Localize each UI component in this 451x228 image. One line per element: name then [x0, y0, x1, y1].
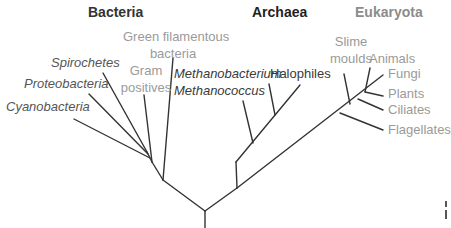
label-spirochetes: Spirochetes: [51, 55, 120, 70]
edge-mark-top: [445, 201, 447, 207]
heading-archaea: Archaea: [252, 4, 307, 20]
branch-ciliates: [358, 99, 383, 110]
branch-methanococcus: [243, 101, 253, 143]
heading-bacteria: Bacteria: [88, 4, 143, 20]
label-slime-moulds: Slime moulds: [330, 34, 372, 66]
branch-proteobacteria: [89, 94, 148, 154]
archaea-stem: [236, 162, 237, 188]
heading-eukaryota: Eukaryota: [355, 4, 423, 20]
label-gram-positives: Gram positives: [118, 63, 174, 95]
ae-trunk: [205, 188, 237, 211]
label-animals: Animals: [369, 51, 415, 66]
label-green-filamentous-line1: Green filamentous: [123, 29, 223, 44]
branch-cyanobacteria: [74, 119, 150, 158]
label-slime-line2: moulds: [330, 51, 372, 66]
branch-plants: [365, 92, 383, 96]
label-gram-line2: positives: [118, 80, 174, 95]
branch-flagellates: [340, 113, 383, 130]
label-cyanobacteria: Cyanobacteria: [6, 99, 90, 114]
label-green-filamentous-line2: bacteria: [123, 46, 223, 61]
label-flagellates: Flagellates: [388, 122, 451, 137]
label-fungi: Fungi: [388, 66, 421, 81]
label-methanobacterium: Methanobacterium: [174, 66, 282, 81]
label-methanococcus: Methanococcus: [174, 83, 265, 98]
label-green-filamentous: Green filamentous bacteria: [123, 29, 223, 61]
label-proteobacteria: Proteobacteria: [24, 76, 109, 91]
label-gram-line1: Gram: [118, 63, 174, 78]
branch-methanobacterium: [269, 84, 275, 115]
branch-slime-moulds: [344, 74, 350, 104]
label-plants: Plants: [388, 86, 424, 101]
label-slime-line1: Slime: [330, 34, 372, 49]
label-halophiles: Halophiles: [270, 66, 331, 81]
label-ciliates: Ciliates: [388, 102, 431, 117]
edge-mark-bottom: [445, 210, 447, 219]
branch-animals: [365, 68, 370, 92]
bacteria-trunk: [163, 180, 205, 211]
bacteria-sub-trunk: [152, 162, 163, 180]
